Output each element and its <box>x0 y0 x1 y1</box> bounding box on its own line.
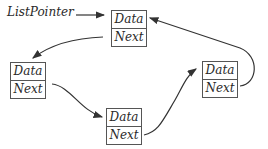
node-next-field: Next <box>107 127 141 144</box>
node-data-field: Data <box>11 63 45 81</box>
arrow-node3-to-node4 <box>144 69 196 135</box>
list-pointer-label: ListPointer <box>7 5 74 19</box>
node-data-field: Data <box>112 11 146 29</box>
node-next-field: Next <box>112 29 146 46</box>
node-next-field: Next <box>203 80 237 97</box>
list-node-1: Data Next <box>111 10 147 47</box>
node-data-field: Data <box>203 62 237 80</box>
list-node-3: Data Next <box>106 108 142 145</box>
node-data-field: Data <box>107 109 141 127</box>
arrow-node2-to-node3 <box>52 84 102 117</box>
node-next-field: Next <box>11 81 45 98</box>
arrow-node1-to-node2 <box>33 37 103 58</box>
list-node-4: Data Next <box>202 61 238 98</box>
list-node-2: Data Next <box>10 62 46 99</box>
